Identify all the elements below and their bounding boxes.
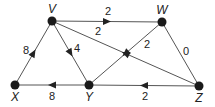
- edge-weight-label: 0: [183, 45, 189, 57]
- node-w: [158, 18, 167, 27]
- node-x: [11, 81, 20, 90]
- node-y: [85, 81, 94, 90]
- edge-weight-label: 4: [74, 42, 80, 54]
- node-label-x: X: [10, 90, 20, 104]
- node-label-z: Z: [194, 91, 203, 105]
- arrowhead-icon: [66, 48, 73, 57]
- arrowhead-icon: [140, 82, 148, 89]
- arrowhead-icon: [29, 50, 36, 59]
- graph-diagram: 22482082 VWXYZ: [0, 0, 215, 107]
- node-label-v: V: [48, 2, 57, 16]
- node-z: [195, 82, 204, 91]
- arrowhead-icon: [48, 82, 56, 89]
- edge-weight-label: 2: [95, 25, 101, 37]
- node-label-y: Y: [85, 90, 94, 104]
- edge-w-z: [162, 22, 199, 86]
- node-labels: VWXYZ: [10, 2, 203, 105]
- edges-layer: [15, 21, 199, 86]
- edge-weight-label: 2: [144, 38, 150, 50]
- arrowhead-icon: [103, 18, 111, 25]
- edge-weight-label: 2: [105, 5, 111, 17]
- nodes-layer: [11, 17, 204, 91]
- node-v: [48, 17, 57, 26]
- arrows-layer: [29, 18, 149, 89]
- edge-weight-label: 2: [142, 90, 148, 102]
- edge-weight-label: 8: [23, 44, 29, 56]
- edge-weight-label: 8: [49, 90, 55, 102]
- node-label-w: W: [156, 3, 169, 17]
